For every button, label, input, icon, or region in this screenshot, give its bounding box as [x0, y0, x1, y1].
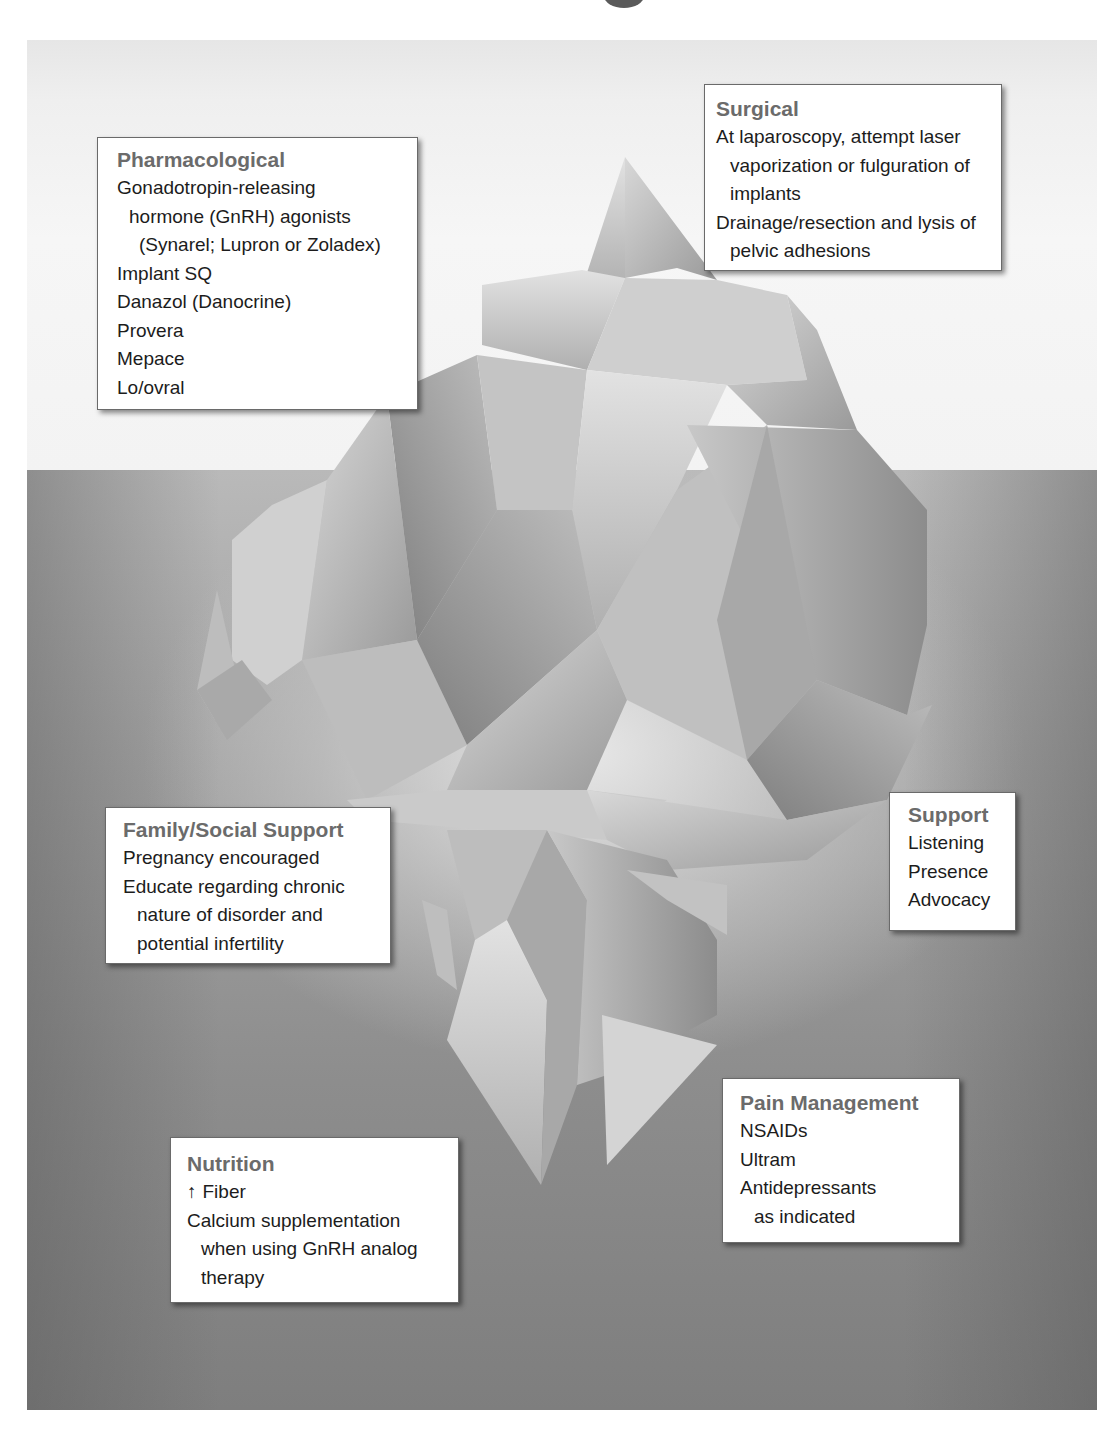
list-item-text: Fiber	[203, 1181, 246, 1202]
list-item: Provera	[117, 317, 417, 346]
list-item-line: when using GnRH analog	[187, 1235, 458, 1264]
list-item-line: pelvic adhesions	[716, 237, 1001, 266]
surgical-heading: Surgical	[716, 95, 1001, 123]
list-item-line: Drainage/resection and lysis of	[716, 209, 1001, 238]
pharmacological-heading: Pharmacological	[117, 146, 417, 174]
list-item-line: as indicated	[740, 1203, 959, 1232]
nutrition-heading: Nutrition	[187, 1150, 458, 1178]
list-item: Gonadotropin-releasing hormone (GnRH) ag…	[117, 174, 417, 260]
list-item-line: hormone (GnRH) agonists	[131, 203, 417, 232]
family-social-support-box: Family/Social Support Pregnancy encourag…	[105, 807, 391, 964]
list-item: Ultram	[740, 1146, 959, 1175]
list-item: Implant SQ	[117, 260, 417, 289]
list-item-line: potential infertility	[123, 930, 390, 959]
list-item: Listening	[908, 829, 1015, 858]
pain-management-heading: Pain Management	[740, 1089, 959, 1117]
arrow-up-icon: ↑	[187, 1181, 197, 1202]
title-fragment	[604, 0, 644, 8]
list-item-line: Gonadotropin-releasing	[131, 174, 417, 203]
list-item: Educate regarding chronic nature of diso…	[123, 873, 390, 959]
list-item-line: therapy	[187, 1264, 458, 1293]
list-item: Lo/ovral	[117, 374, 417, 403]
support-heading: Support	[908, 801, 1015, 829]
list-item: Presence	[908, 858, 1015, 887]
list-item-line: vaporization or fulguration of	[716, 152, 1001, 181]
list-item: ↑Fiber	[187, 1178, 458, 1207]
list-item-line: Antidepressants	[740, 1174, 959, 1203]
list-item: Advocacy	[908, 886, 1015, 915]
support-box: Support Listening Presence Advocacy	[889, 792, 1016, 931]
list-item: Mepace	[117, 345, 417, 374]
pain-management-box: Pain Management NSAIDs Ultram Antidepres…	[722, 1078, 960, 1243]
surgical-box: Surgical At laparoscopy, attempt laser v…	[704, 84, 1002, 271]
list-item-line: (Synarel; Lupron or Zoladex)	[131, 231, 417, 260]
pharmacological-box: Pharmacological Gonadotropin-releasing h…	[97, 137, 418, 410]
list-item: Calcium supplementation when using GnRH …	[187, 1207, 458, 1293]
list-item: NSAIDs	[740, 1117, 959, 1146]
family-social-support-heading: Family/Social Support	[123, 816, 390, 844]
list-item: Danazol (Danocrine)	[117, 288, 417, 317]
list-item: At laparoscopy, attempt laser vaporizati…	[716, 123, 1001, 209]
list-item-line: implants	[716, 180, 1001, 209]
list-item: Antidepressants as indicated	[740, 1174, 959, 1231]
list-item: Drainage/resection and lysis of pelvic a…	[716, 209, 1001, 266]
list-item-line: At laparoscopy, attempt laser	[716, 123, 1001, 152]
list-item: Pregnancy encouraged	[123, 844, 390, 873]
list-item-line: nature of disorder and	[123, 901, 390, 930]
list-item-line: Calcium supplementation	[187, 1207, 458, 1236]
list-item-line: Educate regarding chronic	[123, 873, 390, 902]
nutrition-box: Nutrition ↑Fiber Calcium supplementation…	[170, 1137, 459, 1303]
